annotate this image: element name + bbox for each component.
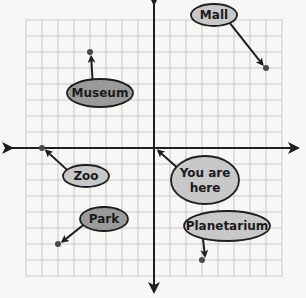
leader-arrow-park <box>62 224 84 241</box>
coordinate-map: MallMuseumZooYou arehereParkPlanetarium <box>0 0 306 298</box>
label-museum: Museum <box>67 79 133 107</box>
label-planetarium: Planetarium <box>184 211 270 241</box>
label-text: Mall <box>200 8 228 22</box>
leader-arrow-planetarium <box>203 237 205 255</box>
label-text: here <box>190 181 221 195</box>
label-text: Park <box>89 212 120 226</box>
location-labels: MallMuseumZooYou arehereParkPlanetarium <box>46 4 270 256</box>
axes <box>12 4 298 292</box>
leader-arrow-zoo <box>46 151 67 171</box>
point-zoo <box>39 145 45 151</box>
coordinate-grid-svg: MallMuseumZooYou arehereParkPlanetarium <box>0 0 306 298</box>
leader-arrow-you-are-here <box>158 151 177 168</box>
label-text: Zoo <box>73 169 98 183</box>
label-text: You are <box>179 166 231 180</box>
label-you-are-here: You arehere <box>171 156 239 204</box>
point-mall <box>263 65 269 71</box>
label-zoo: Zoo <box>63 165 109 187</box>
point-park <box>55 241 61 247</box>
point-museum <box>87 49 93 55</box>
label-mall: Mall <box>191 4 237 26</box>
label-park: Park <box>80 207 128 231</box>
point-planetarium <box>199 257 205 263</box>
label-text: Museum <box>72 86 129 100</box>
leader-arrow-museum <box>91 57 92 80</box>
label-text: Planetarium <box>186 219 269 233</box>
